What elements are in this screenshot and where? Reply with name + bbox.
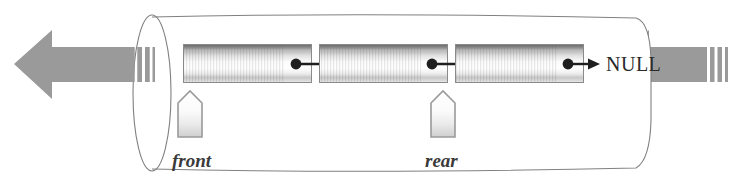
- front-pointer-label: front: [172, 150, 212, 171]
- node-3-pointer-top-shade: [557, 44, 584, 52]
- list-node: [455, 44, 600, 83]
- flow-arrow-left-overlap: [120, 47, 155, 82]
- rear-pointer-label: rear: [425, 150, 458, 171]
- node-1-pointer-top-shade: [285, 44, 312, 52]
- pipe-cylinder: [133, 15, 651, 172]
- flow-arrow-left-overlap-shape: [120, 47, 155, 82]
- queue-linked-list-diagram: NULL front rear: [0, 0, 753, 187]
- node-3-top-shade: [455, 44, 557, 52]
- node-1-top-shade: [183, 44, 285, 52]
- node-2-pointer-top-shade: [421, 44, 448, 52]
- node-2-top-shade: [319, 44, 421, 52]
- diagram-canvas: NULL front rear: [0, 0, 753, 187]
- pipe-body-outline: [152, 15, 651, 172]
- null-terminator-label: NULL: [606, 53, 661, 75]
